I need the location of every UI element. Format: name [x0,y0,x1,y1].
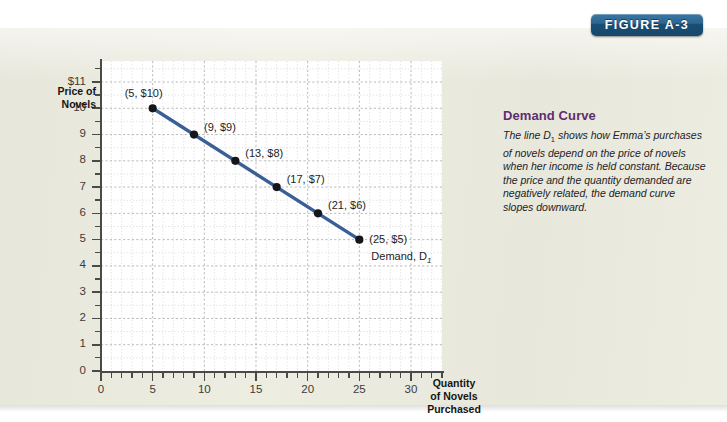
x-tick [183,372,184,378]
x-tick-label: 20 [288,383,328,395]
caption-title: Demand Curve [503,108,708,123]
x-tick [245,372,246,378]
caption-body-prefix: The line D [503,129,551,141]
data-point-label: (17, $7) [287,173,325,185]
x-tick [142,372,143,378]
data-point-label: (25, $5) [369,233,407,245]
y-tick-label: 2 [40,311,86,323]
caption-body: The line D1 shows how Emma’s purchases o… [503,129,708,215]
x-tick [152,372,154,381]
y-tick-label: 7 [40,180,86,192]
y-tick-label: 3 [40,285,86,297]
x-tick [121,372,122,378]
x-tick [379,372,380,378]
y-tick [92,213,101,215]
x-tick [100,372,102,381]
x-tick [235,372,236,378]
y-tick [92,186,101,188]
y-tick [92,291,101,293]
x-tick [338,372,339,378]
y-tick [92,81,101,83]
x-tick [204,372,206,381]
caption-body-rest: shows how Emma’s purchases of novels dep… [503,129,706,213]
x-axis-title-line2: of Novels [405,390,503,403]
y-axis-title: Price of Novels [30,85,96,110]
y-tick [95,199,101,200]
x-tick [307,372,309,381]
demand-annotation-sub: 1 [427,256,431,265]
x-tick-label: 5 [133,383,173,395]
y-tick-label: 8 [40,153,86,165]
y-tick [95,68,101,69]
y-tick [95,331,101,332]
y-tick [95,305,101,306]
y-axis-title-line2: Novels [30,98,96,111]
chart-plot: 012345678910$11 051015202530 Price of No… [0,28,727,405]
y-tick-label: 9 [40,127,86,139]
y-tick [92,265,101,267]
x-tick [162,372,163,378]
figure-badge: FIGURE A-3 [591,14,703,36]
y-tick [95,357,101,358]
x-tick [328,372,329,378]
x-tick [390,372,391,378]
demand-annotation-text: Demand, D [371,250,427,262]
x-tick [317,372,318,378]
data-point-label: (13, $8) [245,147,283,159]
y-tick-label: 6 [40,206,86,218]
data-point-label: (9, $9) [204,121,236,133]
x-tick [369,372,370,378]
caption-block: Demand Curve The line D1 shows how Emma’… [503,108,708,215]
y-axis-title-line1: Price of [30,85,96,98]
y-tick-label: 0 [40,364,86,376]
demand-curve [101,61,442,371]
y-tick [92,344,101,346]
x-tick-label: 10 [184,383,224,395]
x-tick [297,372,298,378]
x-tick [266,372,267,378]
y-tick [92,239,101,241]
data-point-label: (21, $6) [328,199,366,211]
demand-curve-annotation: Demand, D1 [371,250,431,265]
y-tick [92,134,101,136]
x-tick-label: 15 [236,383,276,395]
x-axis-title-line1: Quantity [405,377,503,390]
x-tick [348,372,349,378]
y-tick-label: 1 [40,337,86,349]
x-tick [111,372,112,378]
data-point-label: (5, $10) [125,87,163,99]
x-tick-label: 0 [81,383,121,395]
y-tick [95,226,101,227]
y-tick [95,147,101,148]
x-tick [276,372,277,378]
y-tick [92,160,101,162]
y-tick-label: 4 [40,258,86,270]
x-tick [359,372,361,381]
y-tick [95,252,101,253]
x-tick [214,372,215,378]
x-tick [173,372,174,378]
x-tick [131,372,132,378]
x-tick [193,372,194,378]
plot-area [101,61,442,371]
panel-shadow [0,405,727,412]
x-tick [255,372,257,381]
y-tick-label: 5 [40,232,86,244]
x-tick [224,372,225,378]
x-tick-label: 25 [339,383,379,395]
figure-panel: 012345678910$11 051015202530 Price of No… [0,28,727,405]
y-tick [95,173,101,174]
y-tick [92,318,101,320]
x-tick [286,372,287,378]
y-tick [95,121,101,122]
y-tick [95,278,101,279]
x-tick [400,372,401,378]
y-axis-line [100,59,102,373]
